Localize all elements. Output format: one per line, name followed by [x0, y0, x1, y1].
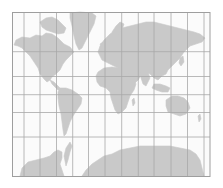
map-canvas [0, 0, 223, 188]
world-map [0, 0, 223, 188]
